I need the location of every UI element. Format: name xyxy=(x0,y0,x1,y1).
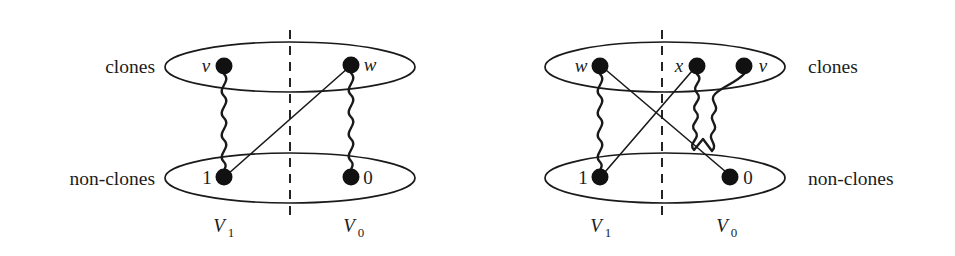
partition-label-V0-sub: 0 xyxy=(731,225,738,240)
edge-w-to-0 xyxy=(606,70,726,172)
node-0[interactable] xyxy=(343,169,360,186)
edge-x-to-v-wavy xyxy=(692,74,744,151)
node-1[interactable] xyxy=(592,169,609,186)
node-0[interactable] xyxy=(722,169,739,186)
clones-label: clones xyxy=(808,56,858,77)
node-v[interactable] xyxy=(736,58,753,75)
partition-label-V0-sub: 0 xyxy=(358,225,365,240)
node-label-v: v xyxy=(759,55,768,76)
non-clones-label: non-clones xyxy=(69,168,155,189)
node-label-w: w xyxy=(575,55,588,76)
non-clones-label: non-clones xyxy=(808,168,894,189)
left-panel: v w 1 0 clones non-clones V 1 V 0 xyxy=(69,30,415,240)
edge-w-to-1 xyxy=(228,68,348,174)
edge-w-to-0-wavy xyxy=(349,73,354,172)
partition-label-V1-sub: 1 xyxy=(228,225,235,240)
partition-label-V0: V 0 xyxy=(343,215,364,240)
partition-label-V1: V 1 xyxy=(213,215,234,240)
node-label-x: x xyxy=(674,55,684,76)
clones-label: clones xyxy=(105,56,155,77)
node-label-0: 0 xyxy=(363,167,373,188)
node-label-1: 1 xyxy=(578,167,588,188)
partition-label-V1-base: V xyxy=(213,215,227,236)
node-label-w: w xyxy=(364,54,377,75)
partition-label-V1: V 1 xyxy=(590,215,611,240)
partition-label-V1-base: V xyxy=(590,215,604,236)
partition-label-V1-sub: 1 xyxy=(605,225,612,240)
node-x[interactable] xyxy=(689,58,706,75)
node-v[interactable] xyxy=(216,58,233,75)
node-label-0: 0 xyxy=(743,167,753,188)
node-w[interactable] xyxy=(592,58,609,75)
right-panel: w x v 1 0 clones non-clones V 1 V 0 xyxy=(545,30,894,240)
node-label-v: v xyxy=(202,55,211,76)
figure-canvas: v w 1 0 clones non-clones V 1 V 0 xyxy=(0,0,955,256)
graph-diagram-svg: v w 1 0 clones non-clones V 1 V 0 xyxy=(0,0,955,256)
partition-label-V0-base: V xyxy=(343,215,357,236)
partition-label-V0-base: V xyxy=(716,215,730,236)
node-label-1: 1 xyxy=(202,167,212,188)
partition-label-V0: V 0 xyxy=(716,215,737,240)
node-1[interactable] xyxy=(216,169,233,186)
edge-x-to-1 xyxy=(605,71,692,172)
node-w[interactable] xyxy=(343,57,360,74)
